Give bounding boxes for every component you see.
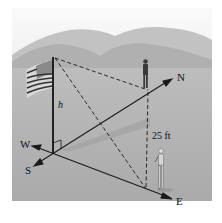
label-height: h	[58, 99, 63, 110]
flagpole-compass-diagram: N E W S h 25 ft	[0, 0, 222, 223]
scene-background	[12, 8, 212, 201]
label-east: E	[176, 195, 183, 207]
label-distance: 25 ft	[152, 130, 171, 141]
label-west: W	[20, 138, 31, 150]
label-north: N	[177, 71, 185, 83]
label-south: S	[25, 164, 31, 176]
